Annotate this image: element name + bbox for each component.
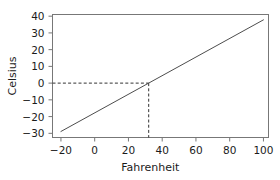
plot-frame bbox=[53, 15, 269, 138]
y-axis-tick-label: −10 bbox=[5, 95, 45, 106]
x-axis-tick-label: 100 bbox=[243, 145, 280, 156]
y-axis-tick-label: 30 bbox=[5, 28, 45, 39]
y-axis-tick-label: 20 bbox=[5, 45, 45, 56]
y-axis-tick-label: 40 bbox=[5, 11, 45, 22]
x-axis-title: Fahrenheit bbox=[0, 162, 280, 173]
y-axis-tick-label: −30 bbox=[5, 128, 45, 139]
chart-figure: −20020406080100−30−20−10010203040 Fahren… bbox=[0, 0, 280, 180]
data-line bbox=[61, 20, 264, 132]
y-axis-title: Celsius bbox=[7, 57, 18, 96]
y-axis-tick-label: −20 bbox=[5, 112, 45, 123]
